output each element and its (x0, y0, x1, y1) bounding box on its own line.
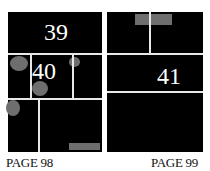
page-98-layout: 39 40 (8, 12, 102, 152)
caption-box (69, 143, 100, 150)
gutter-line (107, 91, 203, 93)
speech-balloon (6, 100, 20, 116)
gutter-line (72, 55, 74, 99)
speech-balloon (69, 57, 80, 67)
panel-number-39: 39 (44, 20, 68, 44)
speech-balloon (10, 56, 28, 71)
caption-box (135, 14, 172, 25)
gutter-line (107, 53, 203, 55)
page-label-99: PAGE 99 (151, 155, 198, 171)
gutter-line (149, 12, 151, 53)
gutter-line (8, 53, 102, 55)
page-label-98: PAGE 98 (6, 155, 53, 171)
panel-number-41: 41 (157, 64, 181, 88)
speech-balloon (32, 81, 48, 96)
gutter-line (38, 100, 40, 152)
panel-number-40: 40 (32, 59, 56, 83)
page-99-layout: 41 (107, 12, 203, 152)
gutter-line (8, 98, 102, 100)
